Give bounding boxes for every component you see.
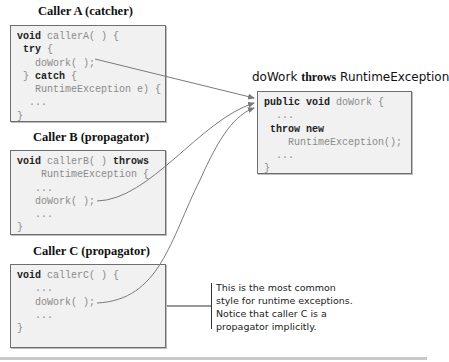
arrow-caller-b: [97, 103, 254, 201]
note-line: Notice that caller C is a: [216, 307, 353, 320]
bottom-divider: [0, 357, 427, 360]
callout-note: This is the most common style for runtim…: [216, 281, 353, 333]
note-line: style for runtime exceptions.: [216, 294, 353, 307]
arrow-caller-a: [95, 59, 254, 98]
note-line: This is the most common: [216, 281, 353, 294]
arrow-caller-c: [97, 108, 254, 303]
note-line: propagator implicitly.: [216, 320, 353, 333]
